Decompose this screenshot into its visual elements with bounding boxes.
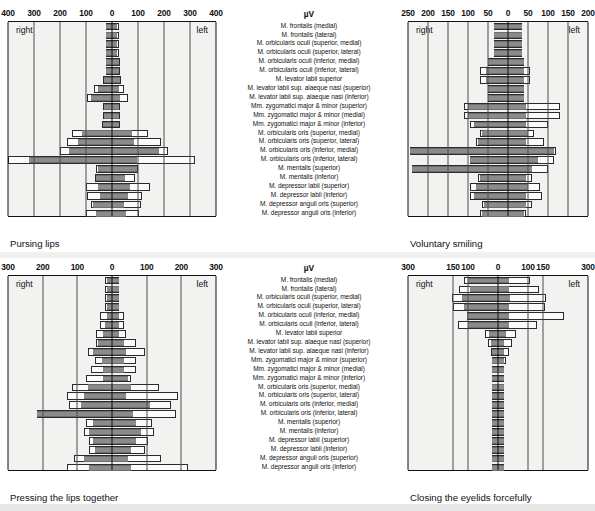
axis-tick-label: 150 <box>536 262 549 272</box>
mean-bar-right <box>102 358 112 364</box>
gridline <box>568 22 569 216</box>
muscle-label: M. orbicularis oculi (inferior, lateral) <box>219 66 399 74</box>
unit-label-bottom: µV <box>219 262 399 275</box>
muscle-label: M. depressor anguli oris (inferior) <box>219 463 399 471</box>
gridline <box>528 276 529 470</box>
muscle-label: M. orbicularis oculi (inferior, lateral) <box>219 320 399 328</box>
muscle-label: Mm. zygomatici major & minor (medial) <box>219 111 399 119</box>
muscle-label: Mm. zygomatici major & minor (superior) <box>219 356 399 364</box>
gridline <box>190 22 191 216</box>
mean-bar-left <box>498 393 504 399</box>
muscle-list-bottom: M. frontalis (medial)M. frontalis (later… <box>219 275 399 471</box>
mean-bar-left <box>112 286 119 292</box>
gridline <box>8 276 9 470</box>
zero-axis-line <box>112 276 113 470</box>
plot-area-pursing-lips: right left <box>8 21 216 217</box>
muscle-label: M. frontalis (medial) <box>219 22 399 30</box>
muscle-label: M. mentalis (superior) <box>219 418 399 426</box>
axis-tick-label: 200 <box>175 262 188 272</box>
muscle-label: M. levator labii sup. alaeque nasi (infe… <box>219 347 399 355</box>
bar-row <box>408 67 588 75</box>
gridline <box>216 276 217 470</box>
panel-voluntary-smiling: 25020015010050050100150200 right left <box>408 8 588 256</box>
gridline <box>453 276 454 470</box>
axis-tick-label: 300 <box>27 8 40 18</box>
mean-bar-left <box>112 59 119 65</box>
mean-bar-right <box>93 438 112 444</box>
bottom-spacer <box>0 504 595 511</box>
bar-row <box>408 94 588 102</box>
muscle-label: M. levator labii sup. alaeque nasi (supe… <box>219 84 399 92</box>
mean-bar-right <box>96 175 112 181</box>
mean-bar-right <box>98 340 112 346</box>
muscle-label: Mm. zygomatici major & minor (superior) <box>219 102 399 110</box>
gridline <box>138 22 139 216</box>
bar-row <box>408 165 588 173</box>
mean-bar-right <box>93 202 113 208</box>
mean-bar-left <box>112 113 119 119</box>
mean-bar-right <box>89 429 112 435</box>
plot-area-closing-eyelids-forcefully: right left <box>408 275 588 471</box>
mean-bar-left <box>112 295 119 301</box>
mean-bar-right <box>96 211 112 217</box>
muscle-label: M. levator labii superior <box>219 329 399 337</box>
mean-bar-left <box>508 59 524 65</box>
panel-pursing-lips: 4003002001000100200300400 right left <box>8 8 216 256</box>
mean-bar-left <box>498 438 504 444</box>
mean-bar-right <box>98 166 112 172</box>
mean-bar-right <box>488 86 508 92</box>
mean-bar-right <box>474 193 508 199</box>
mean-bar-left <box>112 104 119 110</box>
muscle-label: M. depressor labii (superior) <box>219 182 399 190</box>
mean-bar-left <box>112 429 141 435</box>
mean-bar-left <box>498 420 504 426</box>
mean-bar-left <box>498 447 504 453</box>
axis-tick-label: 200 <box>157 8 170 18</box>
axis-tick-label: 150 <box>561 8 574 18</box>
axis-tick-label: 100 <box>461 262 474 272</box>
mean-bar-right <box>494 41 508 47</box>
gridline <box>34 22 35 216</box>
gridline <box>543 276 544 470</box>
gridline <box>408 22 409 216</box>
muscle-label: M. depressor anguli oris (superior) <box>219 454 399 462</box>
panel-closing-eyelids-forcefully: 3001501000100150300 right left <box>408 262 588 507</box>
axis-tick-label: 150 <box>441 8 454 18</box>
mean-bar-right <box>482 130 508 136</box>
mean-bar-left <box>112 402 150 408</box>
mean-bar-right <box>410 148 508 154</box>
mean-bar-left <box>508 68 524 74</box>
mean-bar-left <box>498 429 504 435</box>
axis-tick-label: 100 <box>131 8 144 18</box>
muscle-label: Mm. zygomatici major & minor (inferior) <box>219 120 399 128</box>
muscle-label: M. levator labii sup. alaeque nasi (infe… <box>219 93 399 101</box>
mean-bar-left <box>508 184 528 190</box>
bar-row <box>408 40 588 48</box>
bar-row <box>408 210 588 218</box>
gridline <box>146 276 147 470</box>
mean-bar-left <box>112 130 132 136</box>
axis-tick-label: 100 <box>541 8 554 18</box>
mean-bar-right <box>467 313 499 319</box>
mean-bar-right <box>488 95 508 101</box>
mean-bar-left <box>498 278 509 284</box>
mean-bar-left <box>508 157 538 163</box>
mean-bar-right <box>468 322 498 328</box>
mean-bar-left <box>112 367 124 373</box>
mean-bar-left <box>112 175 125 181</box>
mean-bar-left <box>508 202 526 208</box>
mean-bar-left <box>508 193 526 199</box>
bar-row <box>408 49 588 57</box>
mean-bar-right <box>98 184 112 190</box>
axis-ticks-pressing-lips-together: 3002001000100200300 <box>8 262 216 275</box>
bar-row <box>408 58 588 66</box>
mean-bar-left <box>112 139 134 145</box>
muscle-label: M. levator labii sup. alaeque nasi (supe… <box>219 338 399 346</box>
mean-bar-left <box>112 358 124 364</box>
mean-bar-left <box>112 313 119 319</box>
muscle-label: M. depressor labii (inferior) <box>219 445 399 453</box>
gridline <box>488 22 489 216</box>
emg-figure: 4003002001000100200300400 right left 250… <box>0 0 595 511</box>
bar-row <box>408 76 588 84</box>
mean-bar-right <box>494 24 508 30</box>
